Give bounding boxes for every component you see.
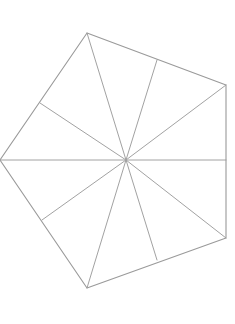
pentagon-spoke-figure (0, 0, 235, 324)
figure-background (0, 0, 235, 324)
